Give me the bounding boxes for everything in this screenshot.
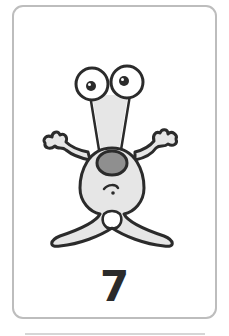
card-number: 7 [0, 262, 229, 312]
divider [25, 333, 205, 335]
